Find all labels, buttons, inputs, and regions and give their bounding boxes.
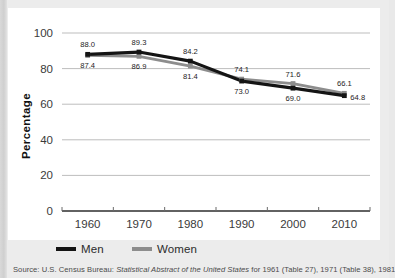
y-tick-label: 0 — [47, 205, 53, 217]
y-tick-label: 40 — [40, 134, 53, 146]
source-note: Source: U.S. Census Bureau: Statistical … — [13, 265, 389, 274]
x-tick-label: 1970 — [126, 218, 152, 230]
page-left-gutter — [0, 0, 7, 278]
data-point-label: 71.6 — [286, 70, 301, 79]
source-publication-title: Statistical Abstract of the United State… — [116, 265, 249, 274]
source-prefix: Source: U.S. Census Bureau: — [13, 265, 116, 274]
data-point-label: 81.4 — [183, 72, 198, 81]
data-point-marker — [239, 79, 244, 84]
x-tick-label: 1960 — [75, 218, 101, 230]
x-tick-label: 2010 — [332, 218, 358, 230]
data-point-marker — [137, 54, 142, 59]
y-tick-label: 80 — [40, 63, 53, 75]
series-line-women — [88, 55, 345, 93]
data-point-label: 88.0 — [80, 40, 95, 49]
data-point-label: 86.9 — [132, 62, 147, 71]
x-tick-label: 1990 — [229, 218, 255, 230]
line-chart: 020406080100Percentage196019701980199020… — [8, 8, 380, 240]
y-tick-label: 100 — [34, 27, 53, 39]
legend-item-women: Women — [132, 243, 197, 255]
data-point-marker — [188, 64, 193, 69]
data-point-label: 87.4 — [80, 61, 95, 70]
x-tick-label: 1980 — [178, 218, 204, 230]
y-axis-title: Percentage — [20, 93, 32, 159]
data-point-marker — [85, 52, 90, 57]
y-tick-label: 60 — [40, 98, 53, 110]
data-point-label: 73.0 — [234, 87, 249, 96]
chart-panel: 020406080100Percentage196019701980199020… — [8, 8, 380, 240]
data-point-label: 84.2 — [183, 47, 198, 56]
data-point-label: 66.1 — [337, 79, 352, 88]
chart-legend: Men Women — [8, 243, 380, 263]
legend-item-men: Men — [56, 243, 104, 255]
legend-swatch-women-icon — [132, 247, 152, 251]
legend-label-men: Men — [81, 243, 104, 255]
source-suffix: for 1961 (Table 27), 1971 (Table 38), 19… — [249, 265, 395, 274]
data-point-marker — [342, 93, 347, 98]
y-tick-label: 20 — [40, 169, 53, 181]
data-point-label: 69.0 — [286, 94, 301, 103]
data-point-marker — [291, 81, 296, 86]
data-point-label: 74.1 — [234, 65, 249, 74]
data-point-label: 64.8 — [350, 93, 365, 102]
data-point-marker — [137, 50, 142, 55]
legend-label-women: Women — [157, 243, 197, 255]
data-point-label: 89.3 — [132, 38, 147, 47]
data-point-marker — [291, 86, 296, 91]
legend-swatch-men-icon — [56, 247, 76, 251]
x-tick-label: 2000 — [280, 218, 306, 230]
data-point-marker — [188, 59, 193, 64]
